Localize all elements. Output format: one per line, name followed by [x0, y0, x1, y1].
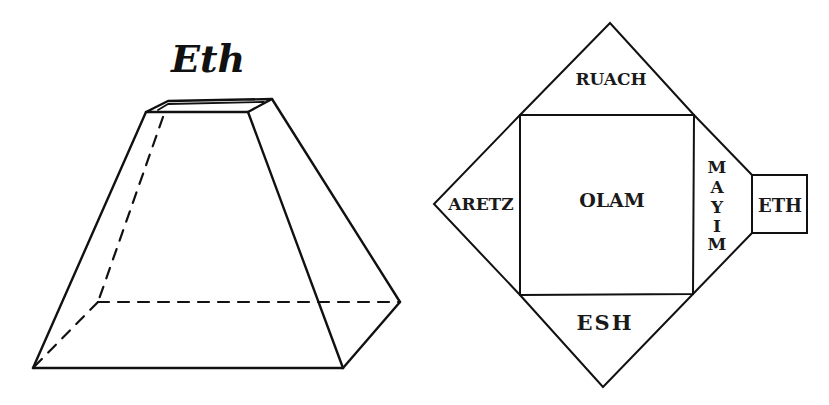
mayim-letter: I [713, 216, 721, 236]
edge-front-left [33, 112, 146, 368]
net-figure: RUACH ARETZ OLAM ESH ETH M A Y I M [434, 23, 807, 387]
frustum-figure: Eth [33, 36, 400, 368]
frustum-title: Eth [170, 36, 245, 81]
label-aretz: ARETZ [447, 194, 513, 214]
edge-front-right [248, 112, 343, 368]
edge-bottom-right [343, 302, 400, 368]
frustum-visible-edges [33, 99, 400, 368]
label-mayim: M A Y I M [708, 157, 727, 254]
net-bottom-triangle [520, 294, 693, 387]
mayim-letter: A [709, 177, 724, 197]
top-face-rim [158, 102, 264, 110]
mayim-letter: Y [710, 197, 724, 217]
label-olam: OLAM [579, 189, 645, 211]
label-esh: ESH [576, 310, 633, 335]
label-ruach: RUACH [575, 69, 646, 89]
mayim-letter: M [708, 234, 727, 254]
diagram-canvas: Eth [0, 0, 829, 405]
edge-back-right [272, 99, 400, 302]
hidden-edge-bottom-left [33, 302, 98, 368]
label-eth: ETH [758, 195, 802, 216]
mayim-letter: M [708, 157, 727, 177]
